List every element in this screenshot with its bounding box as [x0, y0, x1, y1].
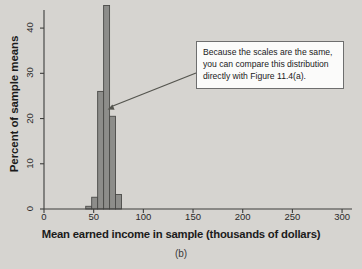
x-axis-title: Mean earned income in sample (thousands … — [0, 228, 362, 240]
histogram-bars — [86, 5, 122, 209]
y-axis-title: Percent of sample means — [8, 4, 20, 204]
histogram-bar — [110, 116, 116, 209]
histogram-bar — [98, 91, 104, 209]
callout-arrow — [108, 73, 196, 110]
x-tick-label: 150 — [180, 211, 206, 222]
histogram-bar — [104, 5, 110, 209]
histogram-bar — [92, 197, 98, 209]
y-tick-label: 20 — [24, 109, 35, 127]
x-tick-label: 100 — [130, 211, 156, 222]
histogram-bar — [116, 195, 122, 209]
histogram-figure: Percent of sample means Mean earned inco… — [0, 0, 362, 269]
x-tick-label: 0 — [31, 211, 57, 222]
panel-caption: (b) — [0, 248, 362, 259]
y-tick-label: 30 — [24, 64, 35, 82]
x-tick-label: 300 — [329, 211, 355, 222]
x-tick-label: 250 — [279, 211, 305, 222]
x-tick-label: 50 — [81, 211, 107, 222]
y-tick-label: 10 — [24, 154, 35, 172]
y-tick-label: 40 — [24, 19, 35, 37]
x-tick-label: 200 — [230, 211, 256, 222]
callout-box: Because the scales are the same, you can… — [196, 41, 344, 89]
